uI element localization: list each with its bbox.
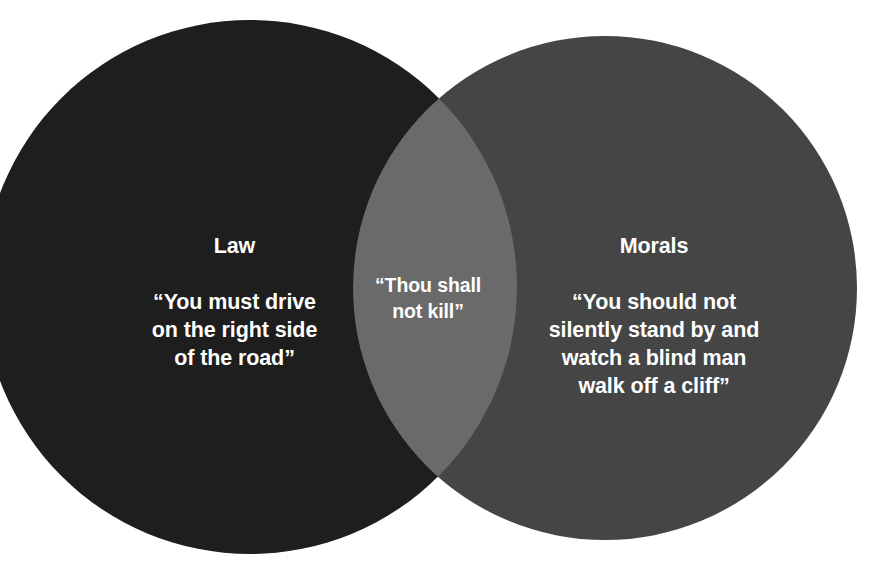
- venn-diagram-canvas: Law “You must drive on the right side of…: [0, 0, 877, 572]
- venn-diagram-graphic: [0, 0, 877, 572]
